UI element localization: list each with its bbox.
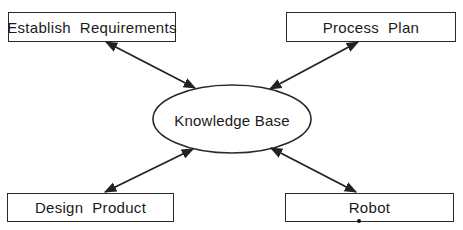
edge-design-knowledge	[105, 149, 193, 192]
node-label: Process Plan	[323, 19, 419, 36]
knowledge-base-label: Knowledge Base	[174, 112, 289, 129]
edge-process-knowledge	[270, 42, 358, 89]
node-design-product: Design Product	[7, 193, 174, 222]
edge-establish-knowledge	[106, 42, 195, 88]
node-process-plan: Process Plan	[286, 12, 456, 42]
node-robot: Robot	[285, 193, 454, 222]
node-establish-requirements: Establish Requirements	[8, 12, 176, 42]
edge-robot-knowledge	[271, 148, 356, 192]
node-label: Establish Requirements	[7, 19, 176, 36]
scan-artifact-dot	[357, 219, 361, 223]
node-label: Design Product	[35, 199, 146, 216]
node-label: Robot	[349, 199, 391, 216]
